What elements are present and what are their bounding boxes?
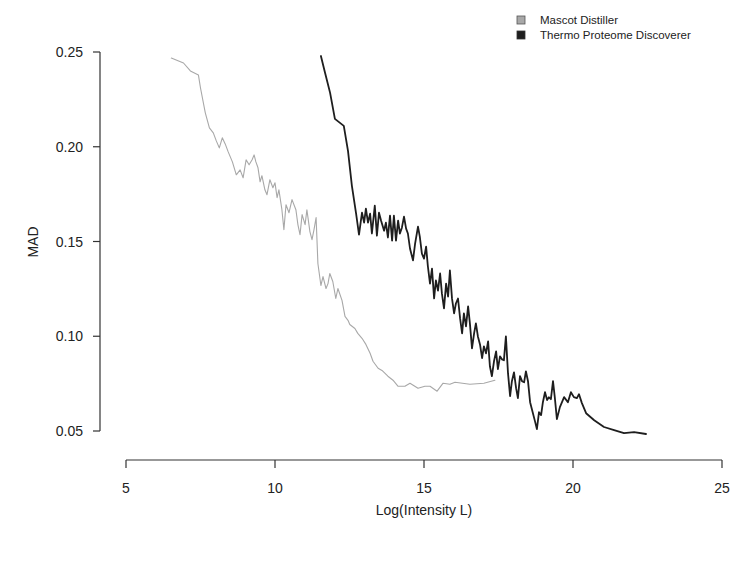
x-tick-label: 25 <box>714 480 730 496</box>
x-axis: 510152025 <box>122 460 730 496</box>
y-axis: 0.050.100.150.200.25 <box>56 44 100 439</box>
x-tick-label: 10 <box>267 480 283 496</box>
series-layer <box>171 56 646 434</box>
y-axis-title: MAD <box>25 226 41 257</box>
x-axis-title: Log(Intensity L) <box>376 502 473 518</box>
legend-item-thermo-proteome-discoverer: Thermo Proteome Discoverer <box>517 29 691 41</box>
legend-swatch-thermo-proteome-discoverer <box>517 31 525 39</box>
y-tick-label: 0.15 <box>56 234 83 250</box>
x-tick-label: 15 <box>416 480 432 496</box>
y-tick-label: 0.25 <box>56 44 83 60</box>
series-thermo-proteome-discoverer <box>321 56 646 434</box>
legend: Mascot Distiller Thermo Proteome Discove… <box>517 14 691 41</box>
legend-label-thermo-proteome-discoverer: Thermo Proteome Discoverer <box>540 29 691 41</box>
legend-swatch-mascot-distiller <box>517 16 525 24</box>
y-tick-label: 0.20 <box>56 139 83 155</box>
legend-item-mascot-distiller: Mascot Distiller <box>517 14 618 26</box>
y-tick-label: 0.10 <box>56 328 83 344</box>
legend-label-mascot-distiller: Mascot Distiller <box>540 14 618 26</box>
y-tick-label: 0.05 <box>56 423 83 439</box>
x-tick-label: 20 <box>565 480 581 496</box>
line-chart: 0.050.100.150.200.25 510152025 MAD Log(I… <box>0 0 754 563</box>
x-tick-label: 5 <box>122 480 130 496</box>
